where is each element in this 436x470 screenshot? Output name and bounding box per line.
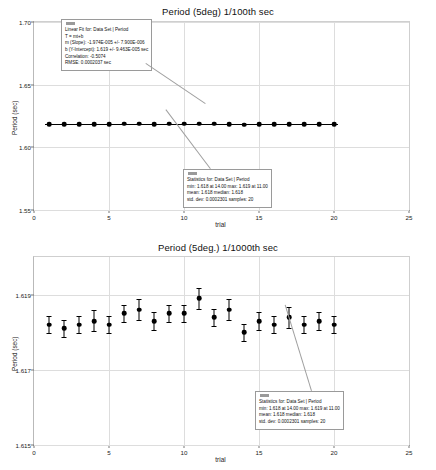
x-tick-label: 5 — [107, 449, 110, 456]
error-bar-cap — [152, 330, 157, 331]
data-point[interactable] — [137, 122, 142, 127]
linear-fit-line — [45, 124, 338, 125]
data-point[interactable] — [152, 122, 157, 127]
error-bar-cap — [47, 316, 52, 317]
statistics-callout-2[interactable]: Statistics for: Data Set | Period min: 1… — [255, 391, 344, 430]
y-tick-mark — [31, 369, 34, 370]
fit-line-6: RMSE: 0.0002037 sec — [65, 60, 148, 67]
chart-2-x-axis-label: trial — [33, 456, 408, 463]
stats-line-4: std. dev: 0.0002301 samples: 20 — [187, 197, 268, 204]
error-bar-cap — [47, 333, 52, 334]
chart-2-title: Period (5deg.) 1/1000th sec — [0, 242, 436, 253]
data-point[interactable] — [182, 311, 187, 316]
gridline-horizontal — [34, 445, 409, 446]
chart-period-1000th: Period (5deg.) 1/1000th sec Period (sec)… — [0, 236, 436, 470]
x-tick-label: 15 — [256, 214, 263, 221]
data-point[interactable] — [332, 122, 337, 127]
gridline-horizontal — [34, 147, 409, 148]
data-point[interactable] — [197, 121, 202, 126]
data-point[interactable] — [92, 319, 97, 324]
data-point[interactable] — [227, 307, 232, 312]
callout-drag-handle[interactable] — [260, 394, 269, 397]
error-bar-cap — [197, 309, 202, 310]
y-tick-label: 1.617 — [16, 366, 31, 373]
data-point[interactable] — [227, 122, 232, 127]
data-point[interactable] — [152, 319, 157, 324]
error-bar-cap — [272, 316, 277, 317]
callout-drag-handle[interactable] — [66, 22, 75, 25]
linear-fit-callout[interactable]: Linear Fit for: Data Set | Period T = mt… — [61, 19, 152, 71]
data-point[interactable] — [302, 322, 307, 327]
stats-line-2: min: 1.618 at 14.00 max: 1.619 at 11.00 — [259, 406, 340, 413]
data-point[interactable] — [242, 122, 247, 127]
stats-line-3: mean: 1.618 median: 1.618 — [259, 412, 340, 419]
data-point[interactable] — [272, 322, 277, 327]
data-point[interactable] — [47, 322, 52, 327]
data-point[interactable] — [62, 326, 67, 331]
error-bar-cap — [317, 330, 322, 331]
data-point[interactable] — [92, 122, 97, 127]
error-bar-cap — [77, 333, 82, 334]
gridline-horizontal — [34, 85, 409, 86]
error-bar-cap — [302, 333, 307, 334]
y-tick-label: 1.60 — [19, 144, 31, 151]
data-point[interactable] — [302, 122, 307, 127]
y-tick-label: 1.619 — [16, 291, 31, 298]
statistics-callout-1[interactable]: Statistics for: Data Set | Period min: 1… — [183, 169, 272, 208]
data-point[interactable] — [242, 330, 247, 335]
data-point[interactable] — [77, 122, 82, 127]
x-tick-label: 10 — [181, 449, 188, 456]
x-tick-label: 15 — [256, 449, 263, 456]
data-point[interactable] — [107, 322, 112, 327]
data-point[interactable] — [62, 122, 67, 127]
chart-1-x-axis-label: trial — [33, 221, 408, 228]
gridline-vertical — [184, 257, 185, 445]
y-tick-mark — [31, 84, 34, 85]
data-point[interactable] — [212, 122, 217, 127]
x-tick-label: 25 — [406, 449, 413, 456]
data-point[interactable] — [317, 319, 322, 324]
data-point[interactable] — [122, 311, 127, 316]
error-bar-cap — [272, 333, 277, 334]
error-bar-cap — [212, 309, 217, 310]
data-point[interactable] — [182, 122, 187, 127]
data-point[interactable] — [167, 122, 172, 127]
error-bar-cap — [62, 320, 67, 321]
error-bar-cap — [227, 320, 232, 321]
fit-line-2: T = mt+b — [65, 34, 148, 41]
data-point[interactable] — [212, 315, 217, 320]
data-point[interactable] — [122, 122, 127, 127]
error-bar-cap — [197, 288, 202, 289]
data-point[interactable] — [197, 296, 202, 301]
data-point[interactable] — [317, 122, 322, 127]
x-tick-label: 25 — [406, 214, 413, 221]
y-tick-mark — [31, 445, 34, 446]
stats-line-3: mean: 1.618 median: 1.618 — [187, 190, 268, 197]
error-bar-cap — [182, 322, 187, 323]
data-point[interactable] — [272, 122, 277, 127]
y-tick-label: 1.615 — [16, 442, 31, 449]
data-point[interactable] — [257, 122, 262, 127]
y-tick-label: 1.65 — [19, 81, 31, 88]
data-point[interactable] — [287, 122, 292, 127]
error-bar-cap — [92, 310, 97, 311]
chart-period-100th: Period (5deg) 1/100th sec Period (sec) t… — [0, 0, 436, 232]
error-bar-cap — [167, 305, 172, 306]
error-bar-cap — [92, 331, 97, 332]
data-point[interactable] — [332, 322, 337, 327]
x-tick-label: 0 — [32, 214, 35, 221]
data-point[interactable] — [257, 319, 262, 324]
gridline-horizontal — [34, 370, 409, 371]
data-point[interactable] — [47, 122, 52, 127]
callout-drag-handle[interactable] — [188, 172, 197, 175]
y-tick-mark — [31, 147, 34, 148]
error-bar-cap — [332, 333, 337, 334]
error-bar-cap — [122, 305, 127, 306]
fit-line-3: m (Slope): -1.974E-005 +/- 7.900E-006 — [65, 40, 148, 47]
data-point[interactable] — [137, 307, 142, 312]
error-bar-cap — [62, 337, 67, 338]
y-tick-mark — [31, 294, 34, 295]
data-point[interactable] — [107, 122, 112, 127]
data-point[interactable] — [77, 322, 82, 327]
data-point[interactable] — [167, 311, 172, 316]
